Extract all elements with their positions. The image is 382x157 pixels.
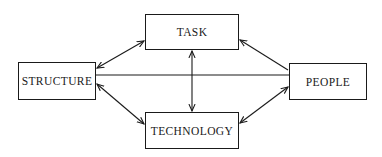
node-label: TASK (177, 26, 208, 38)
node-structure: STRUCTURE (18, 62, 96, 100)
edge-people-technology (240, 87, 288, 123)
node-label: TECHNOLOGY (151, 125, 234, 137)
node-task: TASK (145, 14, 239, 50)
node-technology: TECHNOLOGY (145, 112, 239, 149)
node-people: PEOPLE (289, 63, 367, 100)
edge-people-task (240, 40, 288, 70)
node-label: STRUCTURE (22, 75, 93, 87)
edge-structure-task (97, 41, 144, 68)
edge-structure-technology (97, 84, 144, 124)
node-label: PEOPLE (306, 76, 351, 88)
